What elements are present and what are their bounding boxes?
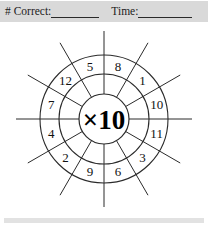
wheel-sector-number[interactable]: 6 <box>115 164 122 179</box>
wheel-sector-number[interactable]: 8 <box>115 59 122 74</box>
wheel-sector-number[interactable]: 12 <box>59 73 72 88</box>
footer-band <box>4 218 204 223</box>
wheel-sector-number[interactable]: 10 <box>150 97 163 112</box>
time-label: Time: <box>111 6 138 18</box>
wheel-sector-number[interactable]: 7 <box>48 97 55 112</box>
header-row: # Correct: Time: <box>0 1 208 22</box>
wheel-sector-number[interactable]: 11 <box>150 126 163 141</box>
correct-count-label: # Correct: <box>5 6 51 18</box>
wheel-sector-number[interactable]: 3 <box>139 150 146 165</box>
correct-count-input[interactable] <box>51 6 99 18</box>
wheel-sector-number[interactable]: 2 <box>62 150 69 165</box>
wheel-spoke <box>28 132 83 164</box>
center-multiplier-label: ×10 <box>83 105 125 135</box>
wheel-sector-number[interactable]: 5 <box>87 59 94 74</box>
wheel-area: ×10 811011369247125 <box>0 22 208 212</box>
wheel-sector-number[interactable]: 1 <box>139 73 146 88</box>
time-input[interactable] <box>138 6 192 18</box>
multiplication-wheel-worksheet: # Correct: Time: ×10 811011369247125 <box>0 0 208 228</box>
wheel-spoke <box>28 75 83 107</box>
wheel-sector-number[interactable]: 9 <box>87 164 94 179</box>
wheel-sector-number[interactable]: 4 <box>48 126 55 141</box>
multiplication-wheel-diagram: ×10 811011369247125 <box>0 22 208 212</box>
